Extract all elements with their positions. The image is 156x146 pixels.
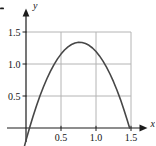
function-curve: [25, 42, 130, 145]
x-tick-label: 1.5: [125, 132, 138, 143]
corner-mark: [0, 8, 4, 10]
y-axis-letter: y: [32, 0, 38, 11]
y-axis-arrow-icon: [23, 9, 30, 17]
graph-canvas: 0.51.01.50.51.01.5 y x: [0, 0, 155, 146]
plot-layer: 0.51.01.50.51.01.5: [7, 9, 148, 146]
x-axis-arrow-icon: [140, 125, 148, 132]
x-axis-letter: x: [150, 118, 156, 129]
y-tick-label: 1.5: [8, 27, 21, 38]
graph-figure: 0.51.01.50.51.01.5 y x: [0, 0, 155, 146]
y-tick-label: 0.5: [8, 91, 21, 102]
x-tick-label: 0.5: [55, 132, 68, 143]
y-tick-label: 1.0: [8, 59, 21, 70]
x-tick-label: 1.0: [90, 132, 103, 143]
